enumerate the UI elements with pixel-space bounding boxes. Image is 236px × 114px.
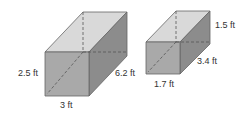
prisms-figure: 2.5 ft 3 ft 6.2 ft 1.5 ft 1.7 ft 3.4 ft (0, 0, 236, 114)
large-prism-width-label: 3 ft (60, 100, 73, 110)
small-prism-height-label: 1.5 ft (215, 20, 236, 30)
small-prism-depth-label: 3.4 ft (197, 56, 218, 66)
large-prism-front-face (45, 52, 89, 96)
large-prism (45, 12, 127, 96)
large-prism-depth-label: 6.2 ft (115, 68, 136, 78)
small-prism-width-label: 1.7 ft (154, 79, 175, 89)
large-prism-height-label: 2.5 ft (18, 68, 39, 78)
